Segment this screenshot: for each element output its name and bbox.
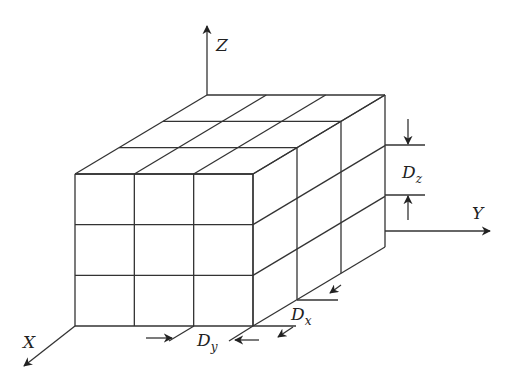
z-axis-label: Z: [215, 35, 229, 55]
dz-label: Dz: [401, 162, 423, 186]
cube-grid: [75, 95, 385, 326]
dx-label: Dx: [290, 304, 312, 328]
dy-label: Dy: [196, 330, 218, 354]
diagram-canvas: Z Y X Dz Dy Dx: [0, 0, 508, 389]
x-axis-label: X: [21, 332, 36, 352]
y-axis-label: Y: [472, 203, 485, 223]
